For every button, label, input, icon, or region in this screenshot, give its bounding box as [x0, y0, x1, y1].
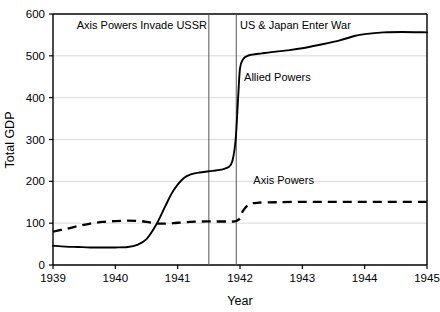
series-label-allied-powers: Allied Powers [244, 71, 311, 83]
y-tick-label-300: 300 [26, 134, 45, 146]
y-tick-label-400: 400 [26, 92, 45, 104]
y-tick-label-600: 600 [26, 8, 45, 20]
y-tick-label-500: 500 [26, 50, 45, 62]
annotation-label-1: US & Japan Enter War [240, 19, 351, 31]
y-tick-label-100: 100 [26, 217, 45, 229]
y-axis-title: Total GDP [3, 112, 17, 169]
x-axis-title: Year [227, 294, 252, 308]
y-tick-labels: 0100200300400500600 [26, 8, 45, 271]
x-tick-label-1944: 1944 [352, 272, 378, 284]
x-tick-label-1940: 1940 [103, 272, 129, 284]
annotation-label-0: Axis Powers Invade USSR [77, 19, 207, 31]
y-tick-label-200: 200 [26, 175, 45, 187]
x-tick-label-1943: 1943 [290, 272, 316, 284]
x-tick-labels: 1939194019411942194319441945 [40, 272, 440, 284]
x-tick-label-1941: 1941 [165, 272, 191, 284]
grid-lines [53, 56, 427, 223]
x-tick-label-1942: 1942 [227, 272, 253, 284]
annotation-labels: Axis Powers Invade USSRUS & Japan Enter … [77, 19, 351, 31]
y-tick-label-0: 0 [39, 259, 45, 271]
x-tick-label-1945: 1945 [414, 272, 440, 284]
gdp-line-chart: 1939194019411942194319441945 01002003004… [0, 0, 440, 312]
series-label-axis-powers: Axis Powers [253, 174, 314, 186]
chart-svg: 1939194019411942194319441945 01002003004… [0, 0, 440, 312]
series-line-axis-powers [53, 202, 427, 232]
x-tick-label-1939: 1939 [40, 272, 66, 284]
series-labels: Allied PowersAxis Powers [244, 71, 314, 186]
